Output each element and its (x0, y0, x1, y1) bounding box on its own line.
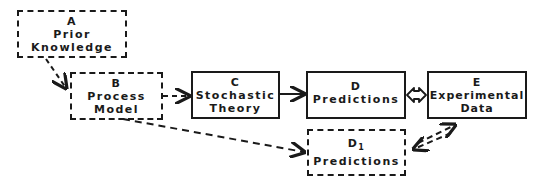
node-b-process-model: B Process Model (70, 72, 163, 120)
node-e-line-2: Data (460, 102, 493, 115)
node-d1-id-letter: D (348, 137, 359, 150)
node-e-line-1: Experimental (430, 89, 524, 102)
node-a-id: A (67, 15, 77, 28)
node-c-stochastic-theory: C Stochastic Theory (191, 71, 280, 119)
node-d-line-1: Predictions (313, 93, 400, 106)
node-d-predictions: D Predictions (306, 71, 406, 119)
node-d1-line-1: Predictions (313, 155, 400, 168)
arrow-b-to-d1 (123, 119, 304, 152)
arrow-e-to-d1 (414, 133, 451, 149)
node-e-experimental-data: E Experimental Data (427, 71, 527, 119)
node-c-line-2: Theory (210, 102, 262, 115)
node-c-line-1: Stochastic (196, 89, 276, 102)
node-b-line-2: Model (94, 103, 139, 116)
node-d1-id: D1 (348, 137, 366, 154)
node-c-id: C (231, 76, 241, 89)
node-d-id: D (351, 80, 362, 93)
arrow-a-to-b (46, 59, 66, 88)
node-e-id: E (473, 76, 482, 89)
node-d1-id-subscript: 1 (358, 144, 365, 153)
node-a-prior-knowledge: A Prior Knowledge (17, 10, 127, 58)
node-d1-predictions: D1 Predictions (307, 129, 406, 176)
node-b-line-1: Process (87, 90, 146, 103)
arrow-d-e-bidirectional (407, 88, 426, 102)
node-b-id: B (112, 77, 122, 90)
node-a-line-1: Prior (53, 28, 91, 41)
node-a-line-2: Knowledge (31, 41, 113, 54)
